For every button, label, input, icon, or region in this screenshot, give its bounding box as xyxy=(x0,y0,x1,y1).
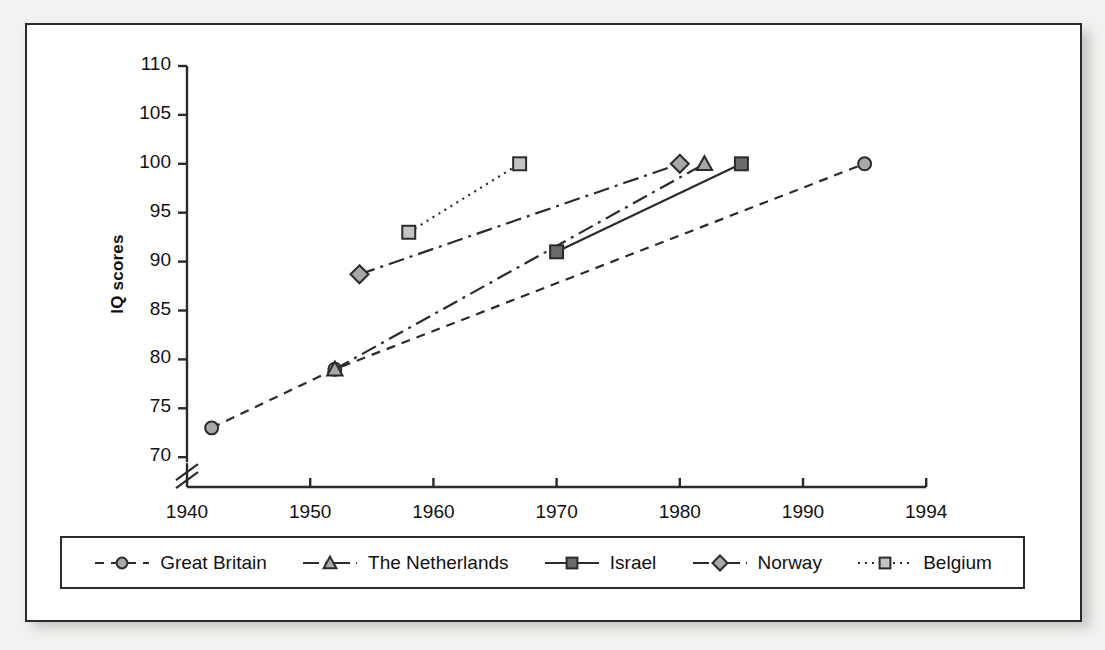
data-point-marker xyxy=(712,555,727,570)
series-the-netherlands xyxy=(327,156,712,375)
legend-marker-triangle-icon xyxy=(301,552,359,574)
legend-label: The Netherlands xyxy=(368,552,508,574)
legend-marker-circle-icon xyxy=(93,552,151,574)
series-norway xyxy=(350,155,688,284)
chart-legend: Great BritainThe NetherlandsIsraelNorway… xyxy=(60,536,1025,589)
figure-frame: IQ scores 707580859095100105110 19401950… xyxy=(25,23,1082,622)
legend-entry-norway[interactable]: Norway xyxy=(691,552,822,574)
legend-label: Great Britain xyxy=(160,552,267,574)
legend-entry-great-britain[interactable]: Great Britain xyxy=(93,552,267,574)
screenshot-root: IQ scores 707580859095100105110 19401950… xyxy=(0,0,1105,650)
legend-entry-belgium[interactable]: Belgium xyxy=(856,552,992,574)
series-line xyxy=(409,164,520,232)
series-line xyxy=(557,164,742,252)
series-line xyxy=(212,164,865,428)
data-point-marker xyxy=(402,226,415,239)
data-point-marker xyxy=(513,157,526,170)
legend-marker-diamond-icon xyxy=(691,552,749,574)
data-point-marker xyxy=(350,265,368,283)
series-line xyxy=(335,164,705,369)
data-point-marker xyxy=(735,157,748,170)
data-point-marker xyxy=(566,557,577,568)
series-great-britain xyxy=(205,157,871,434)
legend-label: Norway xyxy=(758,552,822,574)
legend-entry-israel[interactable]: Israel xyxy=(543,552,656,574)
legend-marker-square-icon xyxy=(543,552,601,574)
series-belgium xyxy=(402,157,526,238)
data-point-marker xyxy=(117,557,128,568)
plot-area: IQ scores 707580859095100105110 19401950… xyxy=(27,25,1084,624)
data-point-marker xyxy=(880,557,891,568)
data-point-marker xyxy=(858,157,871,170)
legend-label: Belgium xyxy=(923,552,992,574)
chart-canvas xyxy=(27,25,1084,624)
legend-entry-the-netherlands[interactable]: The Netherlands xyxy=(301,552,508,574)
data-point-marker xyxy=(205,421,218,434)
data-point-marker xyxy=(671,155,689,173)
data-point-marker xyxy=(550,245,563,258)
series-israel xyxy=(550,157,748,258)
series-line xyxy=(359,164,679,275)
data-point-marker xyxy=(697,156,712,170)
legend-marker-square-icon xyxy=(856,552,914,574)
legend-label: Israel xyxy=(610,552,656,574)
